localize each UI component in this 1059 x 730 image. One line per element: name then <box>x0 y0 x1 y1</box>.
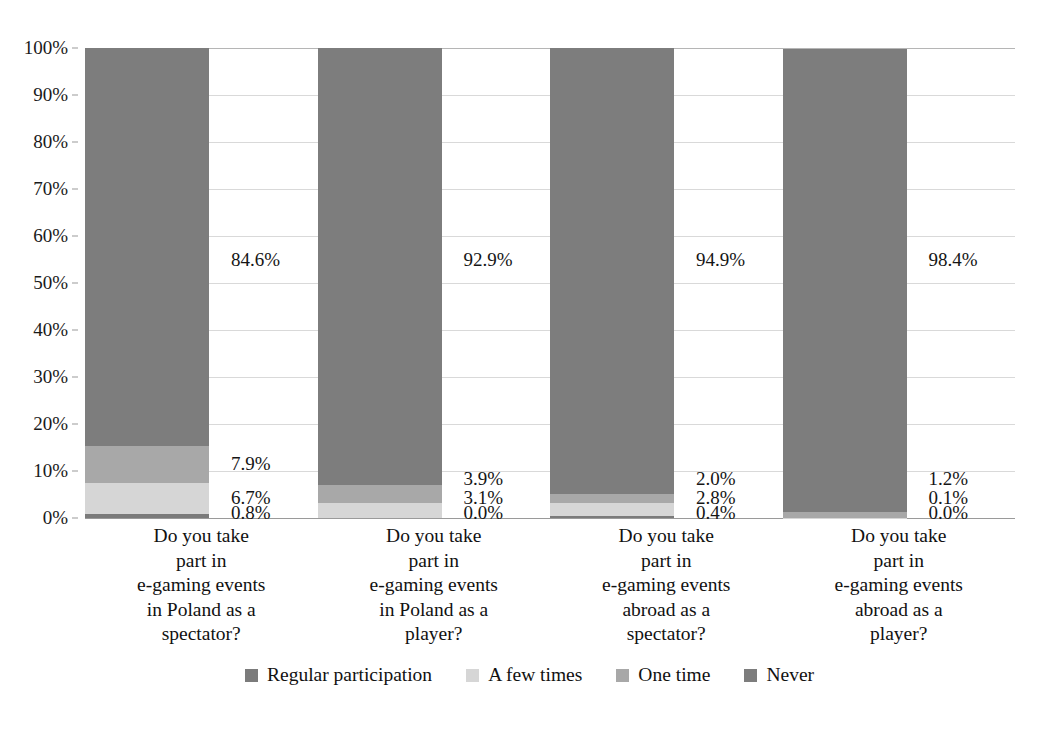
category-label-line: player? <box>783 622 1015 647</box>
column-group: 0.8%6.7%7.9%84.6% <box>85 48 318 518</box>
x-axis-category-label: Do you takepart ine-gaming eventsabroad … <box>783 524 1015 647</box>
data-label: 7.9% <box>231 454 271 474</box>
category-label-line: e-gaming events <box>550 573 782 598</box>
category-label-line: spectator? <box>550 622 782 647</box>
y-axis-tick-label: 0% <box>43 507 68 529</box>
y-axis-tick-label: 80% <box>33 131 68 153</box>
legend-item[interactable]: One time <box>616 664 710 686</box>
data-label: 6.7% <box>231 488 271 508</box>
bar-segment[interactable] <box>550 516 674 518</box>
y-axis-tick-mark <box>72 518 78 519</box>
category-label-line: part in <box>783 549 1015 574</box>
bar-segment[interactable] <box>550 494 674 503</box>
y-axis-tick-label: 50% <box>33 272 68 294</box>
data-label: 2.0% <box>696 469 736 489</box>
stacked-bar[interactable] <box>550 48 674 518</box>
column-group: 0.4%2.8%2.0%94.9% <box>550 48 783 518</box>
bar-segment[interactable] <box>318 503 442 518</box>
x-axis-category-labels: Do you takepart ine-gaming eventsin Pola… <box>85 524 1015 656</box>
chart-legend: Regular participationA few timesOne time… <box>0 664 1059 686</box>
category-label-line: e-gaming events <box>318 573 550 598</box>
bar-segment[interactable] <box>318 485 442 503</box>
bar-segment[interactable] <box>85 514 209 518</box>
legend-label: Regular participation <box>267 664 432 686</box>
y-axis-tick-mark <box>72 95 78 96</box>
data-label: 84.6% <box>231 250 280 270</box>
y-axis-tick-label: 100% <box>24 37 68 59</box>
category-label-line: in Poland as a <box>318 598 550 623</box>
y-axis-tick-mark <box>72 48 78 49</box>
data-label: 2.8% <box>696 488 736 508</box>
category-label-line: in Poland as a <box>85 598 317 623</box>
stacked-bar[interactable] <box>85 48 209 518</box>
y-axis-tick-mark <box>72 189 78 190</box>
y-axis-tick-mark <box>72 424 78 425</box>
data-label: 3.9% <box>464 469 504 489</box>
legend-label: One time <box>638 664 710 686</box>
bar-segment[interactable] <box>550 48 674 494</box>
bar-segment[interactable] <box>85 48 209 446</box>
data-label: 94.9% <box>696 250 745 270</box>
column-group: 0.0%3.1%3.9%92.9% <box>318 48 551 518</box>
category-label-line: e-gaming events <box>85 573 317 598</box>
bar-segment[interactable] <box>318 48 442 485</box>
legend-item[interactable]: Regular participation <box>245 664 432 686</box>
legend-label: Never <box>766 664 814 686</box>
legend-swatch-icon <box>245 669 258 682</box>
y-axis-tick-label: 60% <box>33 225 68 247</box>
category-label-line: Do you take <box>318 524 550 549</box>
column-group: 0.0%0.1%1.2%98.4% <box>783 48 1016 518</box>
y-axis-tick-mark <box>72 236 78 237</box>
category-label-line: part in <box>85 549 317 574</box>
y-axis-tick-label: 40% <box>33 319 68 341</box>
legend-swatch-icon <box>616 669 629 682</box>
y-axis-tick-mark <box>72 330 78 331</box>
stacked-bar-chart: 0%10%20%30%40%50%60%70%80%90%100% 0.8%6.… <box>0 0 1059 730</box>
y-axis-tick-mark <box>72 377 78 378</box>
bar-segment[interactable] <box>783 49 907 511</box>
category-label-line: part in <box>318 549 550 574</box>
data-label: 1.2% <box>929 469 969 489</box>
legend-swatch-icon <box>744 669 757 682</box>
stacked-bar[interactable] <box>318 48 442 518</box>
y-axis-tick-label: 70% <box>33 178 68 200</box>
y-axis-tick-label: 20% <box>33 413 68 435</box>
bar-segment[interactable] <box>550 503 674 516</box>
category-label-line: Do you take <box>783 524 1015 549</box>
category-label-line: player? <box>318 622 550 647</box>
y-axis-tick-mark <box>72 283 78 284</box>
data-label: 92.9% <box>464 250 513 270</box>
category-label-line: abroad as a <box>783 598 1015 623</box>
gridline <box>85 518 1015 519</box>
category-label-line: e-gaming events <box>783 573 1015 598</box>
bar-segment[interactable] <box>85 446 209 483</box>
legend-item[interactable]: A few times <box>466 664 582 686</box>
category-label-line: abroad as a <box>550 598 782 623</box>
category-label-line: spectator? <box>85 622 317 647</box>
bar-segment[interactable] <box>85 483 209 514</box>
plot-area: 0.8%6.7%7.9%84.6%0.0%3.1%3.9%92.9%0.4%2.… <box>85 48 1015 518</box>
y-axis-tick-mark <box>72 142 78 143</box>
legend-item[interactable]: Never <box>744 664 814 686</box>
y-axis-tick-label: 30% <box>33 366 68 388</box>
category-label-line: part in <box>550 549 782 574</box>
y-axis-tick-label: 90% <box>33 84 68 106</box>
legend-swatch-icon <box>466 669 479 682</box>
x-axis-category-label: Do you takepart ine-gaming eventsabroad … <box>550 524 782 647</box>
y-axis-tick-mark <box>72 471 78 472</box>
legend-label: A few times <box>488 664 582 686</box>
data-label: 98.4% <box>929 250 978 270</box>
stacked-bar[interactable] <box>783 48 907 518</box>
data-label: 0.1% <box>929 488 969 508</box>
y-axis: 0%10%20%30%40%50%60%70%80%90%100% <box>0 48 78 518</box>
category-label-line: Do you take <box>85 524 317 549</box>
y-axis-tick-label: 10% <box>33 460 68 482</box>
data-label: 3.1% <box>464 488 504 508</box>
data-label-group: 0.0%0.1%1.2%98.4% <box>915 48 1035 518</box>
category-label-line: Do you take <box>550 524 782 549</box>
x-axis-category-label: Do you takepart ine-gaming eventsin Pola… <box>85 524 317 647</box>
x-axis-category-label: Do you takepart ine-gaming eventsin Pola… <box>318 524 550 647</box>
